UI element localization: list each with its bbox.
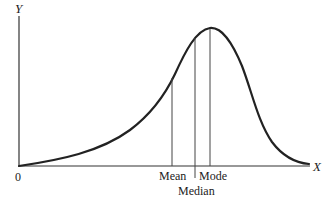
- mode-label: Mode: [199, 169, 227, 183]
- y-axis-label: Y: [15, 1, 24, 16]
- median-label: Median: [178, 184, 215, 198]
- mean-label: Mean: [159, 169, 186, 183]
- origin-label: 0: [15, 170, 21, 184]
- skewed-distribution-diagram: Y X 0 Mean Mode Median: [0, 0, 335, 210]
- distribution-curve: [19, 28, 309, 166]
- x-axis-label: X: [312, 159, 322, 174]
